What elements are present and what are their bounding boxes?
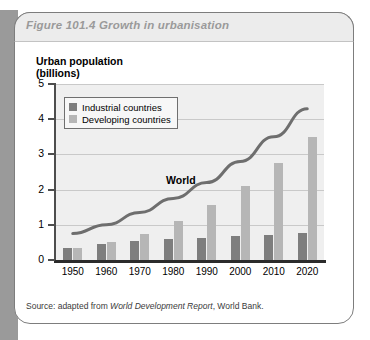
source-publication: World Development Report <box>110 301 213 311</box>
world-annotation-label: World <box>166 174 196 186</box>
bar-industrial-1980 <box>164 239 173 260</box>
bar-industrial-1960 <box>97 244 106 260</box>
source-prefix: Source: adapted from <box>26 301 110 311</box>
y-tick-label-4: 4 <box>24 112 44 124</box>
y-tick-0 <box>48 259 55 261</box>
bar-developing-2000 <box>241 186 250 260</box>
bar-industrial-1970 <box>130 241 139 260</box>
page-title: Figure 101.4 Growth in urbanisation <box>26 19 229 31</box>
bar-developing-2010 <box>274 163 283 260</box>
legend-item-developing: Developing countries <box>69 113 171 125</box>
y-tick-label-5: 5 <box>24 77 44 89</box>
bar-developing-2020 <box>308 137 317 260</box>
chart-legend: Industrial countries Developing countrie… <box>64 97 178 129</box>
bar-developing-1990 <box>207 205 216 260</box>
y-tick-5 <box>48 83 55 85</box>
legend-swatch-icon-developing <box>69 115 77 123</box>
y-axis-title: Urban population (billions) <box>36 55 123 79</box>
bar-developing-1980 <box>174 221 183 260</box>
page-gutter-top-notch <box>0 0 18 10</box>
y-tick-1 <box>48 224 55 226</box>
y-axis-line <box>54 83 56 261</box>
y-tick-label-2: 2 <box>24 183 44 195</box>
x-tick-label-2020: 2020 <box>287 266 327 277</box>
bar-industrial-2020 <box>298 233 307 260</box>
x-axis-line <box>54 260 326 263</box>
bar-developing-1960 <box>107 242 116 260</box>
bar-developing-1970 <box>140 234 149 260</box>
legend-label-developing: Developing countries <box>82 114 171 125</box>
bar-industrial-1950 <box>63 248 72 260</box>
bar-developing-1950 <box>73 248 82 260</box>
y-tick-2 <box>48 189 55 191</box>
bar-industrial-1990 <box>197 238 206 260</box>
y-tick-label-0: 0 <box>24 253 44 265</box>
bar-industrial-2000 <box>231 236 240 260</box>
bar-industrial-2010 <box>264 235 273 260</box>
y-tick-4 <box>48 118 55 120</box>
legend-label-industrial: Industrial countries <box>82 102 162 113</box>
y-tick-3 <box>48 153 55 155</box>
y-tick-label-1: 1 <box>24 218 44 230</box>
source-note: Source: adapted from World Development R… <box>26 301 264 311</box>
source-suffix: , World Bank. <box>213 301 264 311</box>
y-tick-label-3: 3 <box>24 147 44 159</box>
legend-swatch-icon-industrial <box>69 103 77 111</box>
legend-item-industrial: Industrial countries <box>69 101 171 113</box>
